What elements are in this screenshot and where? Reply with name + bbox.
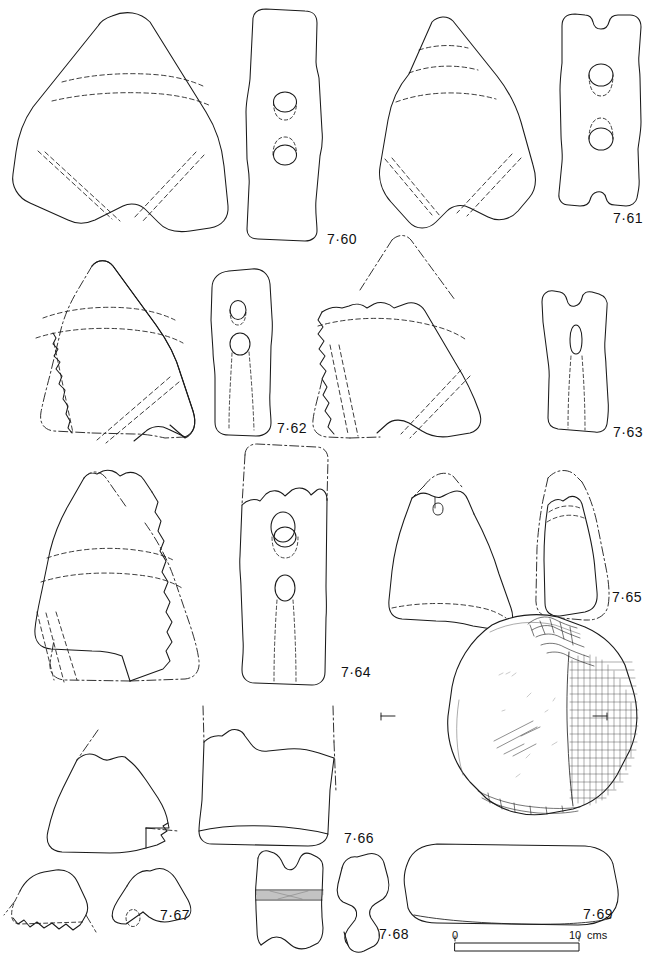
illustration-plate: 7·60 7·61 7·62 7·63 7·64 7·65 7·66 7·67 …: [0, 0, 649, 957]
figure-7-63-profile-view: [542, 291, 608, 432]
figure-label-7-64: 7·64: [341, 664, 371, 680]
scale-bar-end-label: 10: [569, 929, 581, 941]
figure-label-7-62: 7·62: [277, 420, 307, 436]
figure-7-62-face-view: [36, 261, 195, 443]
figure-7-60-face-view: [13, 13, 228, 232]
figure-label-7-66: 7·66: [344, 830, 374, 846]
figure-7-66-face-view: [199, 706, 336, 846]
figure-label-7-67: 7·67: [160, 907, 190, 923]
figure-7-67-face-view: [47, 730, 178, 853]
figure-label-7-69: 7·69: [583, 906, 613, 922]
plate-linework: [0, 0, 649, 957]
scale-bar: [455, 936, 579, 951]
figure-7-64-face-view: [35, 470, 199, 682]
scale-bar-unit-label: cms: [587, 929, 607, 941]
figure-label-7-63: 7·63: [613, 424, 643, 440]
figure-7-62-profile-view: [211, 269, 272, 436]
scale-bar-start-label: 0: [452, 929, 458, 941]
figure-7-60-profile-view: [246, 9, 322, 241]
figure-7-69-plan-view: [381, 615, 638, 815]
figure-label-7-61: 7·61: [613, 210, 643, 226]
figure-label-7-68: 7·68: [379, 926, 409, 942]
figure-label-7-65: 7·65: [612, 589, 642, 605]
figure-7-65-right-fragment: [536, 471, 609, 620]
figure-7-64-profile-view: [240, 444, 328, 685]
figure-label-7-60: 7·60: [327, 231, 357, 247]
figure-7-61-profile-view: [559, 14, 641, 206]
figure-7-63-face-view: [313, 236, 481, 439]
figure-7-67-profile-left: [4, 870, 96, 932]
figure-7-61-face-view: [379, 17, 535, 228]
figure-7-68-face-view: [256, 851, 323, 949]
figure-7-65-left-fragment: [389, 473, 513, 629]
